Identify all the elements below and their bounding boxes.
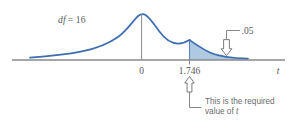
df-value: 16 [76, 15, 86, 25]
critical-value-up-arrow-icon [185, 77, 195, 93]
t-distribution-curve [30, 14, 190, 57]
t-distribution-figure: df=16 0 1.746 t .05 This is the required… [0, 0, 296, 125]
caption-variable-t: t [236, 107, 239, 116]
caption-leader-line [190, 92, 202, 108]
figure-canvas: df=16 0 1.746 t .05 This is the required… [0, 0, 296, 125]
df-symbol: df [58, 15, 67, 25]
tail-area-label: .05 [242, 26, 254, 36]
tail-area-down-arrow-icon [221, 40, 232, 56]
tick-label-zero: 0 [139, 66, 144, 76]
caption-line-1: This is the required [205, 97, 275, 106]
tick-label-critical-value: 1.746 [179, 66, 201, 76]
tail-area-leader-line [227, 31, 241, 40]
df-equals: = [68, 15, 74, 25]
tail-shaded-region [190, 40, 249, 60]
degrees-of-freedom-label: df=16 [58, 15, 86, 25]
caption-line-2: value of t [205, 107, 239, 116]
axis-label-t: t [277, 66, 280, 76]
caption-line-2-prefix: value of [205, 107, 236, 116]
